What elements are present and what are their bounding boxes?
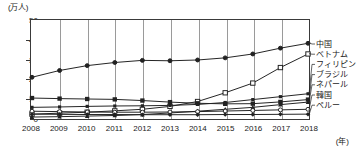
x-axis-unit-label: (年): [336, 135, 349, 146]
data-point-marker: [140, 58, 144, 62]
data-point-marker: [168, 59, 172, 63]
data-point-marker: [196, 58, 200, 62]
data-point-marker: [140, 98, 144, 102]
legend-label-6: 韓国: [316, 91, 332, 100]
data-point-marker: [279, 95, 282, 98]
data-point-marker: [251, 81, 255, 85]
data-point-marker: [30, 106, 33, 109]
data-point-marker: [58, 105, 61, 108]
data-point-marker: [223, 112, 228, 117]
data-point-marker: [223, 56, 227, 60]
data-point-marker: [113, 97, 117, 101]
legend-label-7: ペルー: [316, 101, 340, 110]
data-point-marker: [278, 108, 282, 112]
data-point-marker: [306, 41, 310, 45]
data-point-marker: [251, 112, 256, 117]
x-axis-tick-label: 2009: [44, 124, 74, 133]
data-point-marker: [57, 96, 61, 100]
data-point-marker: [168, 100, 172, 104]
data-point-marker: [85, 97, 89, 101]
data-point-marker: [306, 52, 310, 56]
data-point-marker: [278, 112, 283, 117]
plot-area: [30, 19, 310, 120]
data-point-marker: [86, 105, 89, 108]
series-layer: [31, 20, 309, 119]
x-axis-tick-label: 2008: [16, 124, 46, 133]
data-point-marker: [223, 102, 227, 106]
data-point-marker: [113, 104, 116, 107]
data-point-marker: [30, 96, 34, 100]
x-axis-tick-label: 2012: [127, 124, 157, 133]
data-point-marker: [195, 101, 199, 105]
x-axis-tick-label: 2010: [72, 124, 102, 133]
legend-label-4: ブラジル: [316, 70, 348, 79]
data-point-marker: [113, 61, 117, 65]
x-axis-tick-label: 2018: [294, 124, 324, 133]
data-point-marker: [251, 98, 254, 101]
data-point-marker: [168, 104, 171, 107]
data-point-marker: [251, 52, 255, 56]
x-axis-tick-label: 2013: [155, 124, 185, 133]
data-point-marker: [278, 65, 282, 69]
data-point-marker: [306, 107, 310, 111]
legend-label-1: 中国: [316, 40, 332, 49]
data-point-marker: [306, 112, 311, 117]
data-point-marker: [141, 104, 144, 107]
x-axis-tick-label: 2017: [266, 124, 296, 133]
x-axis-tick-label: 2016: [238, 124, 268, 133]
legend-label-3: フィリピン: [316, 60, 356, 69]
data-point-marker: [223, 91, 227, 95]
x-axis-tick-label: 2011: [99, 124, 129, 133]
data-point-marker: [306, 92, 309, 95]
data-point-marker: [251, 108, 255, 112]
y-axis-unit-label: (万人): [8, 1, 28, 12]
data-point-marker: [85, 64, 89, 68]
legend-label-2: ベトナム: [316, 50, 348, 59]
legend-label-5: ネパール: [316, 80, 348, 89]
data-point-marker: [30, 75, 34, 79]
x-axis-tick-label: 2014: [183, 124, 213, 133]
x-axis-tick-label: 2015: [211, 124, 241, 133]
data-point-marker: [278, 46, 282, 50]
data-point-marker: [58, 69, 62, 73]
